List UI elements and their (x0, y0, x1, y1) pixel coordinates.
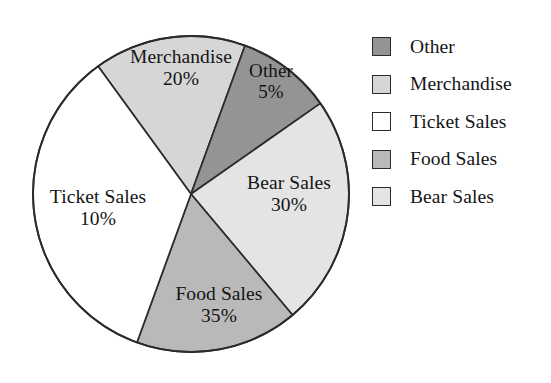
legend-label-bear-sales: Bear Sales (410, 186, 494, 208)
legend-swatch-ticket-sales (372, 112, 391, 131)
slice-label-food-sales-name: Food Sales (152, 283, 286, 305)
pie-chart-figure: Merchandise 20% Other 5% Bear Sales 30% … (0, 0, 551, 383)
slice-label-bear-sales: Bear Sales 30% (228, 172, 350, 216)
legend-swatch-food-sales (372, 150, 391, 169)
slice-label-ticket-sales-name: Ticket Sales (22, 186, 174, 208)
legend-item-bear-sales: Bear Sales (372, 178, 544, 216)
slice-label-food-sales-value: 35% (152, 305, 286, 327)
legend-item-food-sales: Food Sales (372, 141, 544, 179)
slice-label-ticket-sales: Ticket Sales 10% (22, 186, 174, 230)
legend-item-merchandise: Merchandise (372, 66, 544, 104)
legend-swatch-other (372, 37, 391, 56)
legend-swatch-merchandise (372, 75, 391, 94)
chart-legend: Other Merchandise Ticket Sales Food Sale… (372, 28, 544, 216)
legend-label-other: Other (410, 36, 455, 58)
legend-item-other: Other (372, 28, 544, 66)
slice-label-bear-sales-value: 30% (228, 194, 350, 216)
legend-label-food-sales: Food Sales (410, 148, 497, 170)
legend-label-ticket-sales: Ticket Sales (410, 111, 506, 133)
legend-label-merchandise: Merchandise (410, 73, 512, 95)
slice-label-other: Other 5% (232, 60, 310, 103)
slice-label-other-value: 5% (232, 81, 310, 102)
slice-label-bear-sales-name: Bear Sales (228, 172, 350, 194)
legend-swatch-bear-sales (372, 187, 391, 206)
slice-label-other-name: Other (232, 60, 310, 81)
legend-item-ticket-sales: Ticket Sales (372, 103, 544, 141)
slice-label-food-sales: Food Sales 35% (152, 283, 286, 327)
slice-label-ticket-sales-value: 10% (22, 208, 174, 230)
